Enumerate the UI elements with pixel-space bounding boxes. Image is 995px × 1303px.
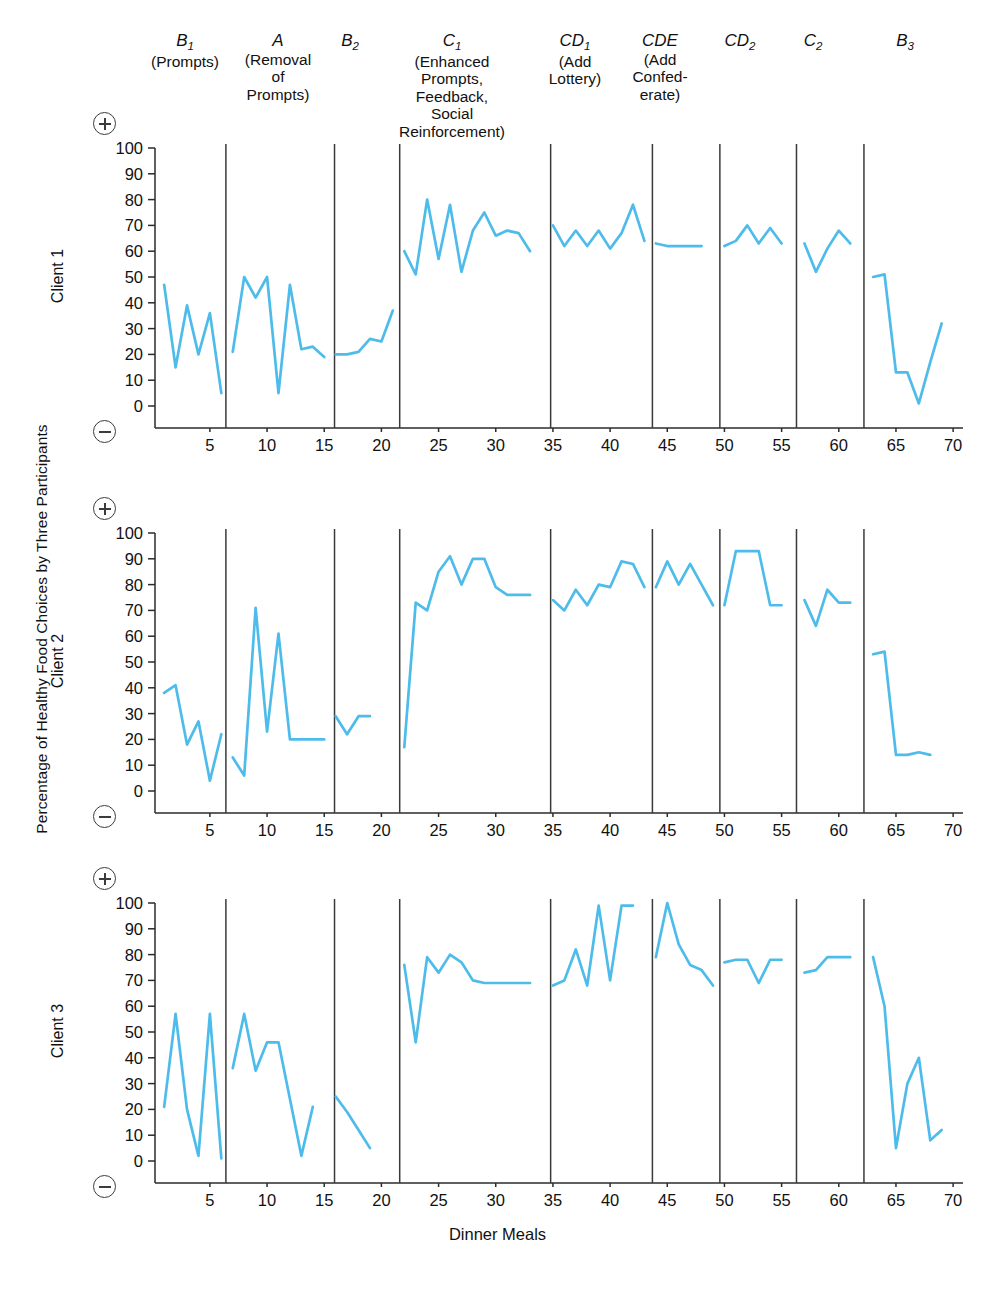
x-tick-label: 50	[715, 436, 733, 455]
y-tick-label: 0	[109, 782, 143, 801]
plot-area-2	[0, 519, 995, 817]
y-tick-label: 60	[109, 627, 143, 646]
y-tick-label: 80	[109, 945, 143, 964]
data-line-CDE	[656, 243, 702, 246]
x-tick-label: 10	[258, 1191, 276, 1210]
y-tick-label: 10	[109, 756, 143, 775]
x-tick-label: 50	[715, 1191, 733, 1210]
phase-description-line: (Add	[617, 51, 703, 69]
data-line-B1	[164, 1014, 221, 1158]
data-line-B2	[336, 311, 393, 355]
phase-label-cd2: CD2	[703, 32, 777, 53]
phase-label-b2: B2	[320, 32, 380, 53]
x-tick-label: 65	[887, 436, 905, 455]
y-tick-label: 70	[109, 601, 143, 620]
y-tick-label: 100	[109, 139, 143, 158]
x-tick-label: 20	[372, 436, 390, 455]
phase-description-line: Lottery)	[529, 70, 621, 88]
x-tick-label: 5	[205, 1191, 214, 1210]
phase-code: CD1	[529, 32, 621, 52]
phase-code: C2	[781, 32, 845, 52]
x-tick-label: 15	[315, 821, 333, 840]
y-tick-label: 0	[109, 1152, 143, 1171]
figure-root: Percentage of Healthy Food Choices by Th…	[0, 0, 995, 1303]
x-tick-label: 25	[429, 821, 447, 840]
phase-code: CD2	[703, 32, 777, 52]
minus-circle-icon	[93, 805, 116, 828]
panel-label-3: Client 3	[49, 971, 67, 1091]
x-tick-label: 60	[830, 1191, 848, 1210]
y-tick-label: 80	[109, 190, 143, 209]
phase-description-line: (Enhanced	[387, 53, 517, 71]
x-tick-label: 60	[830, 821, 848, 840]
x-tick-label: 40	[601, 821, 619, 840]
data-line-CD2	[724, 551, 781, 605]
phase-label-b1: B1(Prompts)	[137, 32, 233, 70]
phase-label-b3: B3	[870, 32, 940, 53]
data-line-CD2	[724, 225, 781, 246]
phase-header-band: B1(Prompts)A(RemovalofPrompts)B2C1(Enhan…	[0, 0, 995, 150]
x-tick-label: 55	[772, 436, 790, 455]
phase-code: B2	[320, 32, 380, 52]
plus-circle-icon	[93, 112, 116, 135]
x-tick-label: 10	[258, 436, 276, 455]
plot-area-1	[0, 134, 995, 432]
data-line-B3	[873, 652, 930, 755]
y-tick-label: 70	[109, 216, 143, 235]
x-tick-label: 30	[487, 821, 505, 840]
x-tick-label: 15	[315, 436, 333, 455]
data-line-A	[233, 608, 324, 776]
phase-code: A	[230, 32, 326, 50]
phase-label-c1: C1(EnhancedPrompts,Feedback,SocialReinfo…	[387, 32, 517, 140]
data-line-C2	[804, 957, 850, 972]
x-tick-label: 35	[544, 1191, 562, 1210]
plus-circle-icon	[93, 497, 116, 520]
phase-label-cde: CDE(AddConfed-erate)	[617, 32, 703, 103]
phase-label-c2: C2	[781, 32, 845, 53]
y-tick-label: 40	[109, 678, 143, 697]
y-tick-label: 20	[109, 730, 143, 749]
x-tick-label: 65	[887, 1191, 905, 1210]
data-line-C1	[404, 955, 530, 1043]
x-tick-label: 45	[658, 1191, 676, 1210]
y-tick-label: 60	[109, 242, 143, 261]
data-line-A	[233, 1014, 313, 1156]
y-tick-label: 0	[109, 397, 143, 416]
phase-subscript: 3	[907, 40, 913, 52]
y-tick-label: 10	[109, 371, 143, 390]
data-line-CD2	[724, 960, 781, 983]
y-tick-label: 50	[109, 268, 143, 287]
phase-description-line: of	[230, 68, 326, 86]
x-tick-label: 15	[315, 1191, 333, 1210]
y-tick-label: 10	[109, 1126, 143, 1145]
phase-subscript: 1	[455, 40, 461, 52]
y-tick-label: 20	[109, 1100, 143, 1119]
phase-code: CDE	[617, 32, 703, 50]
y-tick-label: 40	[109, 1048, 143, 1067]
x-tick-label: 55	[772, 1191, 790, 1210]
data-line-CD1	[553, 906, 633, 986]
x-tick-label: 5	[205, 821, 214, 840]
minus-circle-icon	[93, 420, 116, 443]
data-line-C1	[404, 200, 530, 275]
phase-label-cd1: CD1(AddLottery)	[529, 32, 621, 88]
phase-subscript: 2	[352, 40, 358, 52]
phase-description-line: Social	[387, 105, 517, 123]
y-tick-label: 100	[109, 894, 143, 913]
y-tick-label: 30	[109, 319, 143, 338]
y-tick-label: 40	[109, 293, 143, 312]
data-line-C2	[804, 231, 850, 272]
y-tick-label: 80	[109, 575, 143, 594]
x-tick-label: 45	[658, 436, 676, 455]
phase-code: B3	[870, 32, 940, 52]
data-line-C2	[804, 590, 850, 626]
x-tick-label: 30	[487, 1191, 505, 1210]
phase-description-line: Feedback,	[387, 88, 517, 106]
minus-circle-icon	[93, 1175, 116, 1198]
x-tick-label: 40	[601, 436, 619, 455]
data-line-B2	[336, 1097, 370, 1149]
data-line-B3	[873, 957, 942, 1148]
phase-subscript: 1	[584, 40, 590, 52]
phase-description-line: Prompts)	[230, 86, 326, 104]
phase-code: C1	[387, 32, 517, 52]
